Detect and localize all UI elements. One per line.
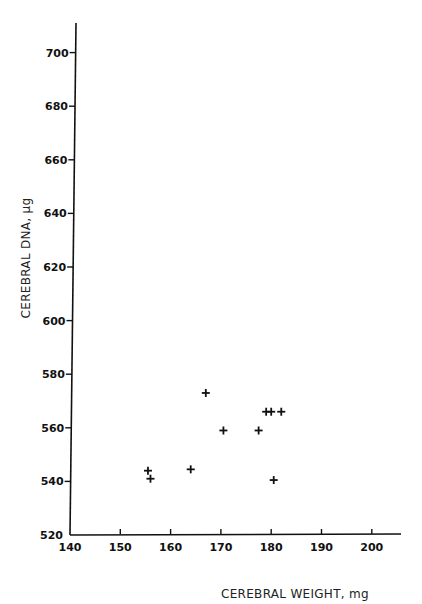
y-tick-label: 620 (43, 261, 66, 274)
plus-marker-icon (202, 389, 210, 397)
plus-marker-icon (270, 476, 278, 484)
y-tick-label: 660 (44, 154, 67, 167)
y-tick-label: 560 (41, 422, 64, 435)
scatter-chart: 520540560580600620640660680700 140150160… (0, 0, 422, 604)
plus-marker-icon (144, 467, 152, 475)
y-tick-label: 580 (42, 368, 65, 381)
y-tick-label: 700 (46, 47, 69, 60)
x-tick-label: 190 (310, 541, 333, 554)
plus-marker-icon (219, 426, 227, 434)
plus-marker-icon (255, 426, 263, 434)
x-tick-label: 200 (360, 541, 383, 554)
plus-marker-icon (267, 408, 275, 416)
y-tick-label: 540 (41, 475, 64, 488)
plus-marker-icon (277, 408, 285, 416)
x-axis-title: CEREBRAL WEIGHT, mg (221, 587, 369, 601)
plus-marker-icon (187, 465, 195, 473)
x-tick-label: 150 (109, 541, 132, 554)
plus-marker-icon (146, 475, 154, 483)
y-tick-label: 640 (44, 207, 67, 220)
x-axis: 140150160170180190200 (59, 529, 401, 554)
y-axis: 520540560580600620640660680700 (40, 23, 76, 542)
data-points (144, 389, 285, 484)
x-tick-label: 160 (159, 541, 182, 554)
y-tick-label: 680 (45, 100, 68, 113)
x-tick-label: 140 (59, 541, 82, 554)
x-tick-label: 170 (209, 541, 232, 554)
y-axis-title: CEREBRAL DNA, μg (19, 198, 33, 319)
y-tick-label: 600 (43, 315, 66, 328)
x-tick-label: 180 (260, 541, 283, 554)
